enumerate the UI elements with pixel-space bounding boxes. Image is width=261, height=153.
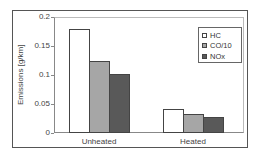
- legend-label: NOx: [210, 52, 225, 61]
- y-tick-label: 0.2: [22, 12, 50, 21]
- y-tick-mark: [51, 17, 54, 18]
- y-tick-mark: [51, 75, 54, 76]
- legend-item: CO/10: [202, 41, 238, 52]
- y-tick-mark: [51, 133, 54, 134]
- legend-swatch-icon: [202, 43, 207, 48]
- y-tick-mark: [51, 46, 54, 47]
- bar-nox-unheated: [109, 74, 130, 133]
- legend-label: CO/10: [210, 41, 232, 50]
- y-tick-label: 0: [22, 128, 50, 137]
- y-tick-label: 0.05: [22, 99, 50, 108]
- x-tick-label: Unheated: [64, 137, 134, 146]
- legend-swatch-icon: [202, 54, 207, 59]
- bar-hc-heated: [163, 109, 184, 133]
- bar-co10-heated: [183, 114, 204, 133]
- bar-hc-unheated: [69, 29, 90, 133]
- y-tick-label: 0.1: [22, 70, 50, 79]
- y-tick-label: 0.15: [22, 41, 50, 50]
- y-tick-mark: [51, 104, 54, 105]
- x-tick-label: Heated: [158, 137, 228, 146]
- legend: HCCO/10NOx: [198, 27, 242, 63]
- legend-item: NOx: [202, 51, 238, 62]
- bar-nox-heated: [203, 117, 224, 133]
- legend-swatch-icon: [202, 33, 207, 38]
- legend-label: HC: [210, 31, 221, 40]
- legend-item: HC: [202, 30, 238, 41]
- bar-co10-unheated: [89, 61, 110, 134]
